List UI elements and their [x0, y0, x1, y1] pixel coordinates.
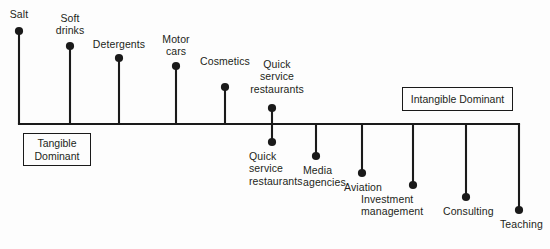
- data-point-motor-cars: [172, 62, 180, 70]
- label-investment-management: Investment management: [361, 193, 423, 218]
- label-salt: Salt: [10, 8, 29, 20]
- label-quick-service-below: Quick service restaurants: [249, 150, 303, 187]
- data-point-teaching: [515, 206, 523, 214]
- label-soft-drinks: Soft drinks: [56, 12, 85, 37]
- data-point-consulting: [462, 193, 470, 201]
- data-point-salt: [15, 27, 23, 35]
- anchor-box-tangible-dominant: Tangible Dominant: [23, 133, 91, 166]
- label-cosmetics: Cosmetics: [200, 55, 250, 67]
- data-point-cosmetics: [221, 83, 229, 91]
- data-point-soft-drinks: [66, 42, 74, 50]
- figure-canvas: SaltSoft drinksDetergentsMotor carsCosme…: [0, 0, 550, 249]
- data-point-quick-service-above: [268, 104, 276, 112]
- anchor-box-intangible-dominant: Intangible Dominant: [402, 87, 513, 111]
- data-point-investment-management: [409, 181, 417, 189]
- label-media-agencies: Media agencies: [303, 164, 346, 189]
- stems-above-group: [19, 31, 272, 124]
- data-point-detergents: [115, 54, 123, 62]
- label-detergents: Detergents: [93, 38, 145, 50]
- label-motor-cars: Motor cars: [162, 33, 189, 58]
- label-quick-service-above: Quick service restaurants: [250, 58, 304, 95]
- data-point-media-agencies: [312, 152, 320, 160]
- label-consulting: Consulting: [443, 205, 494, 217]
- data-point-aviation: [358, 169, 366, 177]
- data-point-quick-service-below: [268, 138, 276, 146]
- label-teaching: Teaching: [500, 218, 543, 230]
- label-aviation: Aviation: [344, 181, 382, 193]
